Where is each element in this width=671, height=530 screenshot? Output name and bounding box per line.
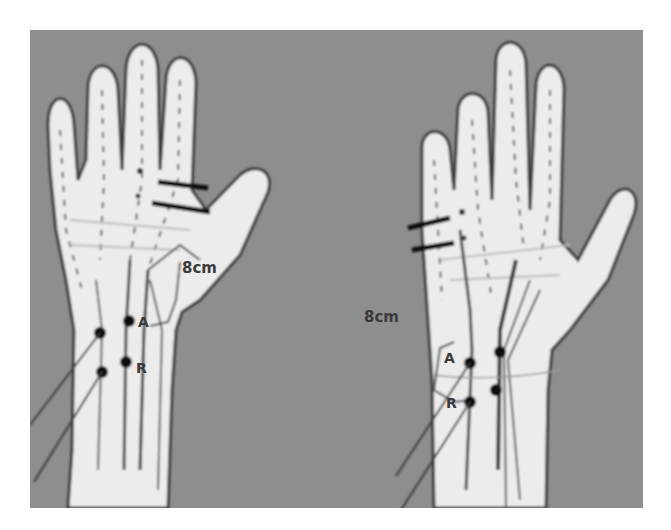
electrode-reference [120, 356, 132, 368]
electrode-ground-2 [490, 384, 502, 396]
right-hand [396, 42, 636, 508]
right-hand-outline [422, 42, 636, 508]
electrode-active [123, 315, 135, 327]
electrode-placement-figure: 8cm A R [30, 30, 643, 508]
right-active-label: A [444, 350, 455, 366]
electrode-ground-1 [494, 346, 506, 358]
left-active-label: A [138, 314, 149, 330]
left-distance-label: 8cm [182, 259, 217, 277]
right-reference-label: R [446, 395, 457, 411]
left-reference-label: R [136, 360, 147, 376]
hands-diagram: 8cm A R [30, 30, 643, 508]
right-distance-label: 8cm [364, 308, 399, 326]
left-hand [30, 45, 269, 509]
